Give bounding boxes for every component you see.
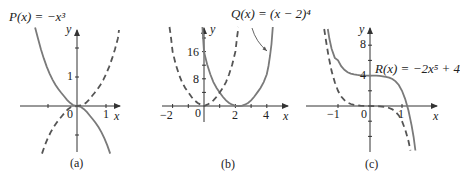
y-axis-label: y <box>210 22 215 37</box>
x-tick-label: 0 <box>67 107 73 122</box>
x-axis-label: x <box>283 109 288 124</box>
function-label-p: P(x) = −x³ <box>9 9 65 25</box>
x-tick-label: 2 <box>232 108 238 123</box>
y-tick-label: 1 <box>67 69 73 84</box>
function-label-q: Q(x) = (x − 2)⁴ <box>231 6 311 22</box>
x-tick-label: 0 <box>361 107 367 122</box>
caption-c: (c) <box>365 157 378 172</box>
y-tick-label: 8 <box>360 37 366 52</box>
y-axis-label: y <box>66 22 71 37</box>
y-tick-label: 16 <box>187 45 199 60</box>
y-axis-label: y <box>359 22 364 37</box>
panel-c-graph <box>306 28 437 152</box>
caption-b: (b) <box>221 157 235 172</box>
x-tick-label: −2 <box>160 108 173 123</box>
x-axis-label: x <box>114 109 119 124</box>
y-tick-label: 4 <box>360 68 366 83</box>
x-tick-label: 1 <box>103 107 109 122</box>
x-axis-label: x <box>433 109 438 124</box>
x-tick-label: 4 <box>263 108 269 123</box>
x-tick-label: 0 <box>195 106 201 121</box>
function-label-r: R(x) = −2x⁵ + 4 <box>375 61 460 77</box>
curve-p-dashed <box>42 30 119 154</box>
curve-r-solid <box>328 29 416 151</box>
x-tick-label: −1 <box>327 107 340 122</box>
x-tick-label: 1 <box>398 107 404 122</box>
curve-q-solid <box>202 27 272 106</box>
curve-r-dashed <box>324 29 410 151</box>
panel-a-graph <box>20 27 120 153</box>
curve-p-solid <box>35 27 110 153</box>
y-tick-label: 8 <box>193 72 199 87</box>
panel-b-graph <box>162 27 288 122</box>
caption-a: (a) <box>70 156 83 171</box>
